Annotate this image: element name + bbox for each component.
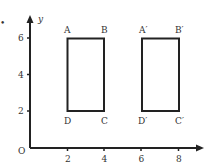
origin-label: O bbox=[18, 146, 25, 156]
point-label-a-prime: A′ bbox=[138, 25, 148, 35]
rectangle-a-prime-b-prime-c-prime-d-prime bbox=[142, 39, 179, 112]
point-label-d-prime: D′ bbox=[138, 116, 147, 126]
x-tick-label-8: 8 bbox=[176, 154, 182, 164]
point-label-b-prime: B′ bbox=[175, 25, 184, 35]
rectangle-abcd bbox=[68, 39, 105, 112]
x-tick-label-4: 4 bbox=[102, 154, 108, 164]
point-label-b: B bbox=[101, 25, 108, 35]
x-tick-label-6: 6 bbox=[139, 154, 145, 164]
coordinate-diagram: • 6 4 2 2 4 6 8 O y A bbox=[0, 0, 205, 168]
point-label-d: D bbox=[64, 116, 71, 126]
point-label-c: C bbox=[101, 116, 108, 126]
y-tick-label-4: 4 bbox=[18, 70, 24, 80]
y-axis-label: y bbox=[37, 14, 44, 24]
x-tick-label-2: 2 bbox=[65, 154, 71, 164]
y-tick-label-6: 6 bbox=[18, 33, 24, 43]
question-marker: • bbox=[0, 18, 5, 28]
y-tick-label-2: 2 bbox=[18, 106, 24, 116]
point-label-a: A bbox=[63, 25, 71, 35]
x-axis-arrow-icon bbox=[196, 145, 204, 152]
point-label-c-prime: C′ bbox=[175, 116, 184, 126]
y-axis-arrow-icon bbox=[27, 15, 34, 23]
axes bbox=[27, 15, 205, 152]
